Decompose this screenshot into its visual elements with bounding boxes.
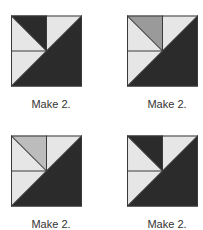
make-count-caption: Make 2. [132, 98, 202, 110]
quilt-block-diagram [11, 15, 82, 87]
make-count-caption: Make 2. [16, 218, 86, 230]
quilt-block-3 [11, 135, 82, 207]
quilt-block-2 [127, 15, 198, 87]
block-cell-4: Make 2. [116, 120, 203, 230]
quilt-block-1 [11, 15, 82, 87]
block-cell-3: Make 2. [0, 120, 100, 230]
make-count-caption: Make 2. [132, 218, 202, 230]
quilt-block-diagram [127, 135, 198, 207]
quilt-block-diagram [127, 15, 198, 87]
quilt-block-diagram [11, 135, 82, 207]
quilt-block-4 [127, 135, 198, 207]
block-cell-1: Make 2. [0, 0, 100, 115]
make-count-caption: Make 2. [16, 98, 86, 110]
block-cell-2: Make 2. [116, 0, 203, 115]
